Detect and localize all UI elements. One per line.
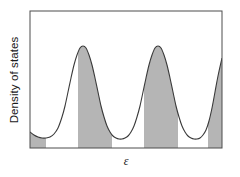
x-axis-label-text: ε: [124, 154, 129, 168]
density-of-states-figure: Density of states ε: [0, 0, 240, 177]
plot-area: [0, 0, 240, 177]
x-axis-label: ε: [30, 154, 222, 169]
